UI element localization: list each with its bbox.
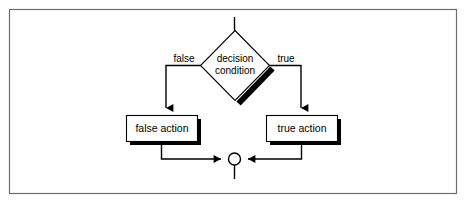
- true-action-box[interactable]: true action: [267, 116, 342, 146]
- decision-label-line2: condition: [215, 65, 255, 76]
- false-action-label: false action: [135, 122, 188, 134]
- flowchart-canvas: decision condition false action true act…: [0, 0, 466, 203]
- false-branch-label: false: [173, 53, 195, 64]
- flowchart-figure: decision condition false action true act…: [0, 0, 466, 203]
- merge-circle: [229, 153, 241, 165]
- true-branch-label: true: [277, 53, 295, 64]
- decision-label-line1: decision: [217, 53, 254, 64]
- true-action-label: true action: [277, 122, 326, 134]
- false-action-box[interactable]: false action: [127, 116, 202, 146]
